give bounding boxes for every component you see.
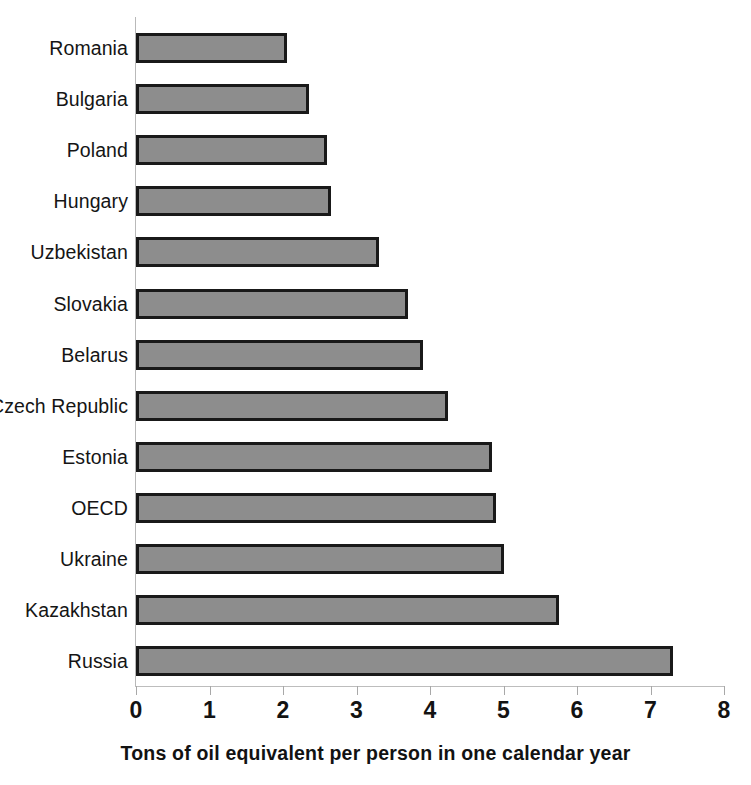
bar-row: Bulgaria bbox=[136, 84, 309, 114]
bar bbox=[136, 544, 504, 574]
bar bbox=[136, 84, 309, 114]
x-axis-tick-label: 5 bbox=[484, 697, 524, 724]
bar-row: Uzbekistan bbox=[136, 237, 379, 267]
x-axis-tick bbox=[504, 686, 505, 695]
bar-row: Czech Republic bbox=[136, 391, 448, 421]
bar-row: Romania bbox=[136, 33, 287, 63]
x-axis-tick bbox=[357, 686, 358, 695]
bar bbox=[136, 595, 559, 625]
x-axis-tick bbox=[283, 686, 284, 695]
bar bbox=[136, 442, 492, 472]
x-axis-tick bbox=[136, 686, 137, 695]
x-axis-tick-label: 1 bbox=[190, 697, 230, 724]
category-label: Estonia bbox=[62, 445, 128, 468]
bar bbox=[136, 493, 496, 523]
bar-row: Estonia bbox=[136, 442, 492, 472]
category-label: Czech Republic bbox=[0, 394, 128, 417]
category-label: Russia bbox=[68, 650, 128, 673]
bar-row: Slovakia bbox=[136, 289, 408, 319]
category-label: Hungary bbox=[54, 190, 128, 213]
bar bbox=[136, 289, 408, 319]
bar bbox=[136, 646, 673, 676]
x-axis-tick bbox=[651, 686, 652, 695]
category-label: OECD bbox=[71, 496, 128, 519]
bar bbox=[136, 186, 331, 216]
category-label: Ukraine bbox=[60, 548, 128, 571]
x-axis-tick bbox=[724, 686, 725, 695]
category-label: Romania bbox=[49, 37, 128, 60]
plot-area: RomaniaBulgariaPolandHungaryUzbekistanSl… bbox=[136, 17, 724, 686]
x-axis-tick-label: 4 bbox=[410, 697, 450, 724]
bar-row: Russia bbox=[136, 646, 673, 676]
bar bbox=[136, 340, 423, 370]
bar-row: OECD bbox=[136, 493, 496, 523]
x-axis-tick bbox=[210, 686, 211, 695]
x-axis-tick bbox=[430, 686, 431, 695]
x-axis-tick-label: 0 bbox=[116, 697, 156, 724]
x-axis-title: Tons of oil equivalent per person in one… bbox=[0, 742, 751, 765]
category-label: Bulgaria bbox=[56, 88, 128, 111]
bar-row: Hungary bbox=[136, 186, 331, 216]
x-axis-tick-label: 2 bbox=[263, 697, 303, 724]
bar-row: Ukraine bbox=[136, 544, 504, 574]
x-axis-tick-label: 8 bbox=[704, 697, 744, 724]
category-label: Belarus bbox=[61, 343, 128, 366]
category-label: Slovakia bbox=[53, 292, 128, 315]
bar bbox=[136, 33, 287, 63]
x-axis-tick bbox=[577, 686, 578, 695]
bar bbox=[136, 237, 379, 267]
bar-row: Belarus bbox=[136, 340, 423, 370]
bar-chart: RomaniaBulgariaPolandHungaryUzbekistanSl… bbox=[0, 0, 751, 785]
bar-row: Poland bbox=[136, 135, 327, 165]
category-label: Kazakhstan bbox=[25, 599, 128, 622]
category-label: Uzbekistan bbox=[31, 241, 128, 264]
bar bbox=[136, 135, 327, 165]
x-axis-tick-label: 6 bbox=[557, 697, 597, 724]
bar-row: Kazakhstan bbox=[136, 595, 559, 625]
x-axis-tick-label: 3 bbox=[337, 697, 377, 724]
category-label: Poland bbox=[67, 139, 128, 162]
bar bbox=[136, 391, 448, 421]
x-axis-tick-label: 7 bbox=[631, 697, 671, 724]
